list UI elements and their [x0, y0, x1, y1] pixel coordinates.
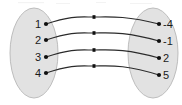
left-element-label-4: 4 — [35, 67, 41, 79]
right-element-label-5: 5 — [163, 69, 169, 81]
right-node-dot-5 — [157, 73, 161, 77]
right-element-label-2: 2 — [163, 52, 169, 64]
right-node-dot--4 — [157, 22, 161, 26]
mapping-diagram-figure: 1234 -4-125 — [0, 0, 182, 105]
right-node-dot--1 — [157, 39, 161, 43]
mapping-midpoint-dot-2 — [93, 31, 96, 35]
mapping-diagram-canvas: 1234 -4-125 — [0, 0, 182, 105]
scan-artifact-group — [18, 2, 152, 4]
mapping-midpoint-dots-group — [93, 15, 96, 68]
mapping-midpoint-dot-3 — [93, 48, 96, 52]
right-element-label--1: -1 — [163, 35, 173, 47]
left-node-dot-1 — [44, 22, 48, 26]
right-node-dot-2 — [157, 56, 161, 60]
left-node-dot-3 — [44, 55, 48, 59]
left-node-dot-2 — [44, 38, 48, 42]
left-element-label-3: 3 — [35, 51, 41, 63]
right-element-label--4: -4 — [163, 18, 173, 30]
left-node-dot-4 — [44, 71, 48, 75]
left-element-label-1: 1 — [35, 18, 41, 30]
left-element-label-2: 2 — [35, 34, 41, 46]
mapping-midpoint-dot-4 — [93, 64, 96, 68]
mapping-midpoint-dot-1 — [93, 15, 96, 19]
